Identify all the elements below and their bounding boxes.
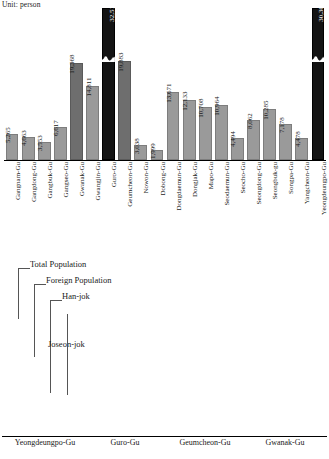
bar-value-label: 4,494 <box>230 131 237 147</box>
bar[interactable]: 12,133 <box>183 100 196 160</box>
legend-foreign: Foreign Population <box>46 276 111 285</box>
bar-value-label: 4,478 <box>295 131 302 147</box>
bar-value-label: 3,038 <box>134 138 141 154</box>
category-label: Gangseo-Gu <box>63 162 70 197</box>
bar[interactable]: 30,307 <box>312 8 325 160</box>
bar-value-label: 13,671 <box>166 83 173 102</box>
bar-column[interactable]: 4,663 <box>22 8 35 160</box>
bar-value-label: 12,133 <box>182 91 189 110</box>
bar[interactable]: 5,265 <box>6 134 19 160</box>
group-label: Geumcheon-Gu <box>160 439 250 447</box>
category-label: Seocho-Gu <box>240 162 247 194</box>
category-label: Nowon-Gu <box>143 162 150 194</box>
bar[interactable]: 3,553 <box>38 142 51 160</box>
bar-column[interactable]: 3,553 <box>38 8 51 160</box>
bar-value-label: 32,512 <box>109 2 116 21</box>
bottom-chart-axis-line <box>2 436 327 437</box>
group-label: Gwanak-Gu <box>240 439 329 447</box>
bar[interactable]: 19,368 <box>70 63 83 160</box>
bar-value-label: 10,285 <box>263 100 270 119</box>
category-label: Gangdong-Gu <box>31 162 38 202</box>
group-label: Yeongdeungpo-Gu <box>0 439 90 447</box>
bar-column[interactable]: 10,708 <box>199 8 212 160</box>
population-composition-chart: Total PopulationForeign PopulationHan-jo… <box>0 258 329 459</box>
category-label: Guro-Gu <box>111 162 118 187</box>
bar[interactable]: 4,494 <box>231 138 244 160</box>
bar[interactable]: 13,671 <box>167 92 180 160</box>
group-label: Guro-Gu <box>80 439 170 447</box>
bar-value-label: 1,999 <box>150 143 157 159</box>
bar-value-label: 6,617 <box>53 120 60 136</box>
bar-value-label: 8,062 <box>247 113 254 129</box>
bar-column[interactable]: 7,178 <box>279 8 292 160</box>
category-label: Gwangjin-Gu <box>95 162 102 201</box>
axis-break-marker <box>312 55 325 62</box>
bar[interactable]: 10,964 <box>215 105 228 160</box>
bar[interactable]: 6,617 <box>54 127 67 160</box>
category-label: Seongdong-Gu <box>256 162 263 204</box>
category-label: Gangbuk-Gu <box>47 162 54 199</box>
bar-column[interactable]: 5,265 <box>6 8 19 160</box>
bar-value-label: 19,883 <box>118 52 125 71</box>
bar-value-label: 10,964 <box>214 96 221 115</box>
category-label: Yangcheon-Gu <box>304 162 311 204</box>
bar-column[interactable]: 14,811 <box>86 8 99 160</box>
bar-value-label: 10,708 <box>198 98 205 117</box>
bar[interactable]: 7,178 <box>279 124 292 160</box>
bar-column[interactable]: 30,307 <box>312 8 325 160</box>
category-label: Geumcheon-Gu <box>127 162 134 207</box>
bar-column[interactable]: 12,133 <box>183 8 196 160</box>
legend-hanjok: Han-jok <box>62 292 90 301</box>
category-label: Dobong-Gu <box>160 162 167 195</box>
category-label: Seongbuk-gu <box>272 162 279 199</box>
bar-value-label: 14,811 <box>86 78 93 97</box>
bar-column[interactable]: 13,671 <box>167 8 180 160</box>
bar-column[interactable]: 10,964 <box>215 8 228 160</box>
bar-column[interactable]: 4,494 <box>231 8 244 160</box>
legend-total: Total Population <box>30 260 86 269</box>
category-label: Gangnam-Gu <box>15 162 22 200</box>
category-label: Gwanak-Gu <box>79 162 86 196</box>
bar[interactable]: 10,708 <box>199 107 212 160</box>
legend-leader-line <box>67 314 68 395</box>
category-label: Songpa-Gu <box>288 162 295 194</box>
bar-value-label: 5,265 <box>5 127 12 143</box>
bar-value-label: 7,178 <box>279 117 286 133</box>
bar-column[interactable]: 3,038 <box>134 8 147 160</box>
category-label: Mapo-Gu <box>208 162 215 189</box>
bar-value-label: 3,553 <box>37 135 44 151</box>
axis-break-marker <box>102 55 115 62</box>
bar[interactable]: 3,038 <box>134 145 147 160</box>
bar[interactable]: 1,999 <box>151 150 164 160</box>
category-label: Dongjak-Gu <box>192 162 199 197</box>
bar-column[interactable]: 19,883 <box>118 8 131 160</box>
foreign-population-by-district-chart: 5,2654,6633,5536,61719,36814,81132,51219… <box>0 8 329 163</box>
bar[interactable]: 14,811 <box>86 86 99 160</box>
bar-value-label: 19,368 <box>69 54 76 73</box>
bar-value-label: 30,307 <box>318 2 325 21</box>
bar[interactable]: 4,478 <box>295 138 308 160</box>
bar-column[interactable]: 1,999 <box>151 8 164 160</box>
bar[interactable]: 8,062 <box>247 120 260 160</box>
bar-column[interactable]: 19,368 <box>70 8 83 160</box>
bar[interactable]: 19,883 <box>118 61 131 160</box>
bar-column[interactable]: 10,285 <box>263 8 276 160</box>
legend-leader-line <box>34 284 46 357</box>
bar-column[interactable]: 4,478 <box>295 8 308 160</box>
bar-column[interactable]: 32,512 <box>102 8 115 160</box>
legend-leader-line <box>18 268 30 319</box>
bar-column[interactable]: 6,617 <box>54 8 67 160</box>
category-label: Dongdaemun-Gu <box>176 162 183 211</box>
bar[interactable]: 32,512 <box>102 8 115 160</box>
bar[interactable]: 4,663 <box>22 137 35 160</box>
bar-value-label: 4,663 <box>21 130 28 146</box>
bar-column[interactable]: 8,062 <box>247 8 260 160</box>
category-label: Seodaemun-Gu <box>224 162 231 206</box>
category-label: Yeongdeungpo-Gu <box>321 162 328 215</box>
top-chart-plot-area: 5,2654,6633,5536,61719,36814,81132,51219… <box>4 8 326 160</box>
bar[interactable]: 10,285 <box>263 109 276 160</box>
